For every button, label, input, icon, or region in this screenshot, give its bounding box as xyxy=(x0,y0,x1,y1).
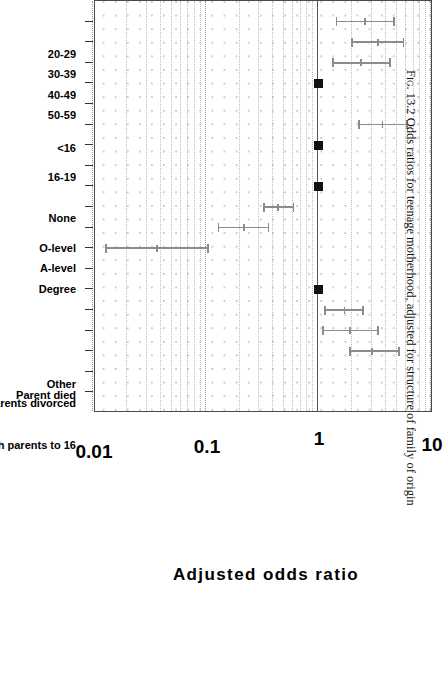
category-label: 50-59 xyxy=(48,110,76,122)
category-tick xyxy=(85,268,93,269)
ci-upper-cap xyxy=(293,203,295,212)
value-tick-label: 0.1 xyxy=(193,436,219,458)
gridline xyxy=(430,1,431,411)
ci-upper-cap xyxy=(362,306,364,315)
gridline xyxy=(312,1,313,411)
category-tick xyxy=(85,288,93,289)
figure-number: Fig. 13.2 xyxy=(404,70,418,115)
category-tick xyxy=(85,185,93,186)
gridline xyxy=(180,1,181,411)
ci-lower-cap xyxy=(322,326,324,335)
category-tick xyxy=(85,247,93,248)
odds-ratio-point-estimate xyxy=(364,18,366,25)
ci-lower-cap xyxy=(324,306,326,315)
category-label: 20-29 xyxy=(48,48,76,60)
category-tick xyxy=(85,350,93,351)
ci-lower-cap xyxy=(332,58,334,67)
confidence-interval-bar xyxy=(323,330,378,332)
odds-ratio-point-estimate xyxy=(344,307,346,314)
ci-upper-cap xyxy=(389,58,391,67)
category-label: A-level xyxy=(40,262,76,274)
axis-title: Adjusted odds ratio xyxy=(172,565,358,585)
category-label: Degree xyxy=(39,283,76,295)
category-tick xyxy=(85,330,93,331)
value-tick-label: 1 xyxy=(314,428,325,450)
odds-ratio-point-estimate xyxy=(371,348,373,355)
ci-lower-cap xyxy=(263,203,265,212)
category-tick xyxy=(85,391,93,392)
category-tick xyxy=(85,41,93,42)
value-tick-label: 0.01 xyxy=(76,441,113,463)
gridline xyxy=(200,1,201,411)
category-label: O-level xyxy=(39,242,76,254)
gridline xyxy=(419,1,420,411)
category-tick xyxy=(85,62,93,63)
category-tick xyxy=(85,309,93,310)
ci-upper-cap xyxy=(393,17,395,26)
category-label: <16 xyxy=(57,141,76,153)
reference-category-marker xyxy=(314,79,323,88)
gridline xyxy=(306,1,307,411)
odds-ratio-point-estimate xyxy=(377,39,379,46)
gridline xyxy=(171,1,172,411)
category-label: None xyxy=(49,212,77,224)
odds-ratio-point-estimate xyxy=(360,59,362,66)
gridline xyxy=(239,1,240,411)
ci-upper-cap xyxy=(398,347,400,356)
ci-upper-cap xyxy=(207,244,209,253)
category-tick xyxy=(85,165,93,166)
category-tick xyxy=(85,103,93,104)
gridline xyxy=(126,1,127,411)
category-tick xyxy=(85,206,93,207)
ci-lower-cap xyxy=(336,17,338,26)
figure-caption-text: Odds ratios for teenage motherhood, adju… xyxy=(404,118,418,506)
ci-lower-cap xyxy=(105,244,107,253)
category-tick xyxy=(85,227,93,228)
gridline xyxy=(205,1,206,411)
gridline xyxy=(194,1,195,411)
category-label: 30-39 xyxy=(48,68,76,80)
category-label: 40-49 xyxy=(48,89,76,101)
category-tick xyxy=(85,124,93,125)
reference-category-marker xyxy=(314,141,323,150)
ci-upper-cap xyxy=(268,223,270,232)
ci-lower-cap xyxy=(351,38,353,47)
odds-ratio-point-estimate xyxy=(382,121,384,128)
ci-lower-cap xyxy=(349,347,351,356)
gridline xyxy=(300,1,301,411)
ci-lower-cap xyxy=(218,223,220,232)
ci-lower-cap xyxy=(358,120,360,129)
category-tick xyxy=(85,144,93,145)
odds-ratio-point-estimate xyxy=(156,245,158,252)
gridline xyxy=(258,1,259,411)
odds-ratio-point-estimate xyxy=(277,204,279,211)
value-tick-label: 10 xyxy=(421,434,442,456)
figure-caption: Fig. 13.2 Odds ratios for teenage mother… xyxy=(403,70,418,694)
reference-category-marker xyxy=(314,182,323,191)
odds-ratio-point-estimate xyxy=(243,224,245,231)
gridline xyxy=(146,1,147,411)
plot-area xyxy=(94,0,432,412)
category-tick xyxy=(85,371,93,372)
ci-upper-cap xyxy=(377,326,379,335)
category-label: Other xyxy=(47,379,76,391)
category-label: Lived with both parents to 16 xyxy=(0,440,76,452)
gridline xyxy=(160,1,161,411)
reference-category-marker xyxy=(314,285,323,294)
odds-ratio-point-estimate xyxy=(349,327,351,334)
category-tick xyxy=(85,21,93,22)
confidence-interval-bar xyxy=(350,350,399,352)
gridline xyxy=(187,1,188,411)
category-tick xyxy=(85,82,93,83)
ci-upper-cap xyxy=(403,38,405,47)
gridline xyxy=(425,1,426,411)
reference-line-or-1 xyxy=(317,1,318,411)
category-label: 16-19 xyxy=(48,171,76,183)
